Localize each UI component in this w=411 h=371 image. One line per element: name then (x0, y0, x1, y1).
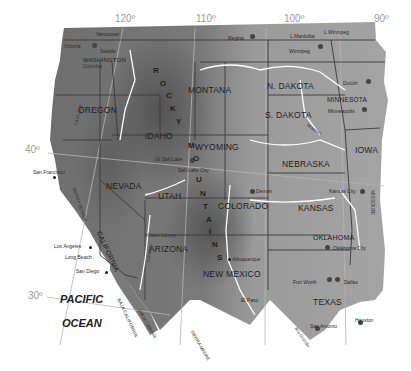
city-dot-los-angeles (89, 246, 92, 249)
lake-label-l-winnipeg: L Winnipeg (324, 30, 349, 35)
latitude-label-40: 40º (25, 145, 40, 155)
longitude-label-100: 100º (284, 14, 304, 24)
city-label-salt-lake-city: Salt Lake City (178, 168, 209, 173)
city-dot-san-francisco (53, 176, 56, 179)
landmark-label-grand-canyon: Grand Canyon (147, 234, 176, 239)
range-letter: U (196, 176, 202, 184)
ocean-label-pacific: PACIFIC (60, 294, 103, 305)
city-label-regina: Regina (228, 36, 244, 41)
city-label-el-paso: El Paso (241, 298, 258, 303)
lake-label-great-salt-lake: Gt Salt Lake (155, 157, 183, 162)
range-letter: N (200, 190, 206, 198)
state-label-washington: WASHINGTON (83, 57, 126, 63)
ocean-label-ocean: OCEAN (62, 318, 102, 329)
longitude-label-90: 90º (374, 14, 389, 24)
city-dot-fort-worth (327, 277, 332, 282)
city-dot-duluth (366, 79, 371, 84)
city-dot-san-diego (105, 271, 108, 274)
latitude-label-30: 30º (28, 291, 43, 301)
city-label-san-antonio: San Antonio (310, 324, 337, 329)
city-dot-denver (250, 189, 255, 194)
range-letter: N (212, 241, 218, 249)
city-dot-kansas-city (360, 189, 365, 194)
state-label-nebraska: NEBRASKA (282, 160, 330, 169)
city-dot-albuquerque (228, 258, 231, 261)
state-label-s-dakota: S. DAKOTA (265, 111, 312, 120)
range-letter: C (166, 92, 172, 100)
range-letter: S (217, 254, 223, 262)
state-label-montana: MONTANA (188, 86, 231, 95)
state-label-oregon: OREGON (78, 106, 117, 115)
city-label-albuquerque: Albuquerque (232, 257, 260, 262)
range-letter: Y (176, 118, 182, 126)
river-label-columbia: Columbia (83, 65, 102, 70)
city-dot-regina (250, 34, 255, 39)
city-label-victoria: Victoria (64, 44, 81, 49)
city-dot-victoria (92, 43, 97, 48)
state-label-texas: TEXAS (313, 298, 342, 307)
state-label-nevada: NEVADA (106, 182, 142, 191)
state-label-arizona: ARIZONA (149, 245, 188, 254)
longitude-label-110: 110º (196, 14, 216, 24)
city-label-san-francisco: San Francisco (33, 170, 65, 175)
range-letter: I (209, 228, 212, 236)
city-label-long-beach: Long Beach (65, 255, 92, 260)
state-label-utah: UTAH (158, 192, 181, 201)
lake-label-l-manitoba: L Manitoba (290, 34, 315, 39)
city-label-denver: Denver (256, 189, 272, 194)
state-label-missouri: MISSOURI (370, 190, 375, 215)
city-dot-winnipeg (318, 44, 323, 49)
state-label-kansas: KANSAS (298, 204, 334, 213)
state-label-oklahoma: OKLAHOMA (313, 234, 354, 241)
range-letter: T (203, 203, 208, 211)
longitude-label-120: 120º (115, 14, 135, 24)
range-letter: R (153, 67, 159, 75)
range-letter: K (170, 105, 176, 113)
state-label-new-mexico: NEW MEXICO (203, 270, 261, 279)
state-label-colorado: COLORADO (218, 202, 268, 211)
state-label-idaho: IDAHO (145, 132, 173, 141)
range-letter: M (188, 142, 195, 150)
range-letter: O (160, 80, 167, 88)
city-label-san-diego: San Diego (76, 269, 99, 274)
city-label-los-angeles: Los Angeles (54, 244, 81, 249)
relief-map (0, 0, 411, 371)
city-label-vancouver: Vancouver (96, 32, 120, 37)
city-label-duluth: Duluth (343, 81, 357, 86)
city-label-dallas: Dallas (344, 280, 358, 285)
city-label-winnipeg: Winnipeg (289, 49, 310, 54)
city-dot-oklahoma-city (325, 245, 330, 250)
city-label-houston: Houston (355, 318, 374, 323)
city-dot-minneapolis (362, 107, 367, 112)
state-label-n-dakota: N. DAKOTA (267, 82, 314, 91)
range-letter: A (206, 216, 212, 224)
state-label-minnesota: MINNESOTA (327, 97, 367, 104)
city-label-seattle: Seattle (100, 49, 116, 54)
city-label-minneapolis: Minneapolis (328, 109, 355, 114)
city-label-fort-worth: Fort Worth (293, 280, 317, 285)
range-letter: O (193, 155, 200, 163)
city-label-oklahoma-city: Oklahoma City (333, 246, 366, 251)
city-dot-dallas (335, 277, 340, 282)
state-label-wyoming: WYOMING (195, 143, 239, 152)
city-label-kansas-city: Kansas City (329, 189, 356, 194)
state-label-iowa: IOWA (355, 146, 378, 155)
